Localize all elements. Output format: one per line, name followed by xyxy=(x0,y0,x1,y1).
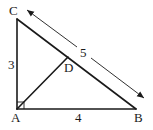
side-cb xyxy=(17,19,136,109)
point-label-c: C xyxy=(9,3,18,18)
side-label-ac: 3 xyxy=(8,57,15,72)
point-label-b: B xyxy=(134,110,143,125)
segment-ad xyxy=(17,57,68,109)
triangle-diagram: C A B D 3 4 5 xyxy=(0,0,153,130)
point-label-d: D xyxy=(64,60,73,75)
dimension-arrow-upper xyxy=(27,10,77,47)
side-label-ab: 4 xyxy=(75,110,82,125)
point-label-a: A xyxy=(11,110,21,125)
side-label-cb: 5 xyxy=(80,45,87,60)
dimension-arrow-lower xyxy=(91,58,144,98)
